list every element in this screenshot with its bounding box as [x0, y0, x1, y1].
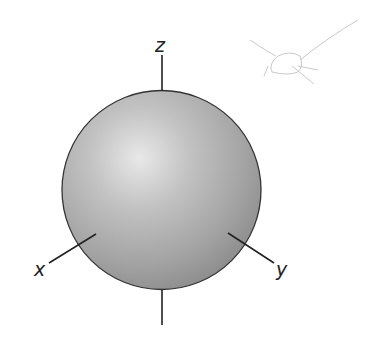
x-axis-label: x	[33, 258, 46, 280]
sphere-diagram: z x y	[0, 0, 371, 350]
sphere	[62, 91, 261, 290]
z-axis-label: z	[154, 34, 166, 56]
y-axis-label: y	[275, 258, 288, 280]
pencil-sketch	[250, 20, 358, 84]
